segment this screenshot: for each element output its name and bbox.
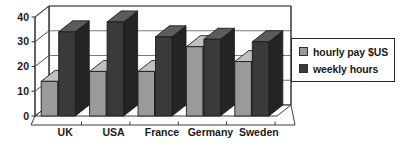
y-axis-label-40: 40 bbox=[17, 11, 29, 23]
x-axis-label-sweden: Sweden bbox=[239, 126, 279, 138]
bar-germany-weekly-hours-side bbox=[220, 28, 234, 116]
legend-label-weekly-hours: weekly hours bbox=[313, 63, 378, 75]
bar-uk-weekly-hours-side bbox=[75, 21, 89, 116]
bar-sweden-weekly-hours-side bbox=[269, 31, 283, 116]
y-axis-label-0: 0 bbox=[23, 110, 29, 122]
x-axis-left-connector bbox=[31, 116, 35, 125]
legend-swatch-weekly-hours bbox=[299, 64, 308, 73]
bar-usa-weekly-hours-side bbox=[124, 11, 138, 116]
bar-usa-weekly-hours bbox=[107, 22, 124, 116]
legend-label-hourly-pay: hourly pay $US bbox=[313, 46, 388, 58]
chart-container: 010203040UKUSAFranceGermanySweden hourly… bbox=[0, 0, 407, 146]
y-axis-label-10: 10 bbox=[17, 85, 29, 97]
y-axis-label-20: 20 bbox=[17, 60, 29, 72]
legend-item-weekly-hours: weekly hours bbox=[299, 60, 387, 77]
bar-uk-hourly-pay bbox=[41, 81, 58, 116]
bar-uk-weekly-hours bbox=[59, 32, 75, 116]
bar-france-weekly-hours-side bbox=[172, 26, 186, 116]
y-axis-label-30: 30 bbox=[17, 35, 29, 47]
bar-france-hourly-pay bbox=[138, 71, 155, 116]
chart-legend: hourly pay $US weekly hours bbox=[291, 38, 395, 82]
legend-swatch-hourly-pay bbox=[299, 47, 308, 56]
legend-item-hourly-pay: hourly pay $US bbox=[299, 43, 387, 60]
x-axis-label-usa: USA bbox=[103, 126, 126, 138]
x-axis-label-germany: Germany bbox=[188, 126, 234, 138]
bar-germany-weekly-hours bbox=[204, 39, 221, 116]
bar-usa-hourly-pay bbox=[90, 71, 107, 116]
bar-germany-hourly-pay bbox=[186, 47, 203, 116]
bar-france-weekly-hours bbox=[156, 37, 173, 116]
x-axis-label-france: France bbox=[145, 126, 180, 138]
bar-sweden-weekly-hours bbox=[252, 42, 268, 116]
bar-sweden-hourly-pay bbox=[235, 62, 252, 116]
x-axis-right-connector bbox=[291, 105, 295, 125]
x-axis-label-uk: UK bbox=[58, 126, 74, 138]
